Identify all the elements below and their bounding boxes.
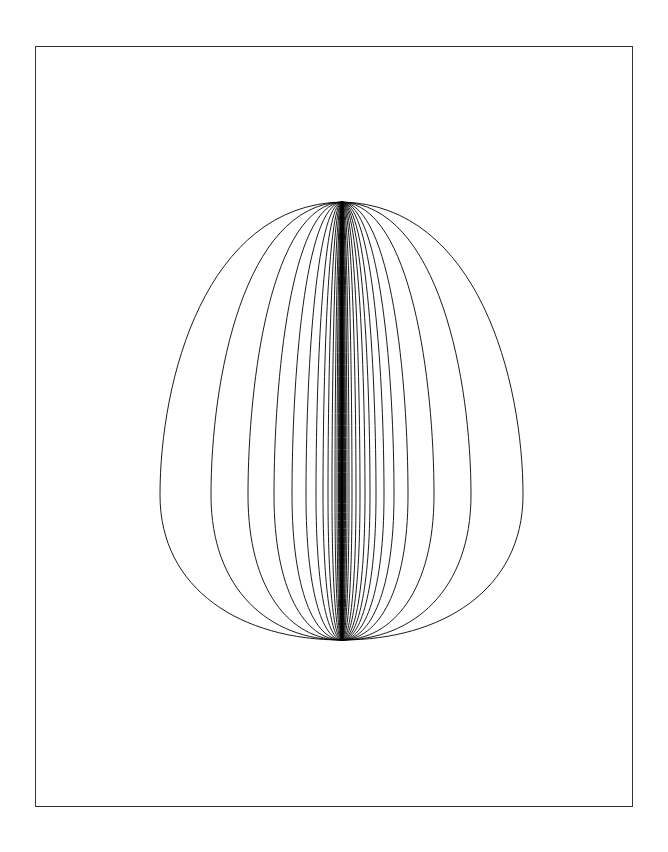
left-curve-2 [248, 202, 342, 640]
curve-family-figure [0, 0, 668, 852]
left-curve-1 [211, 202, 342, 640]
curve-family [160, 202, 523, 640]
left-curve-3 [274, 202, 342, 640]
right-curve-4 [342, 202, 394, 640]
left-curve-5 [306, 202, 342, 640]
